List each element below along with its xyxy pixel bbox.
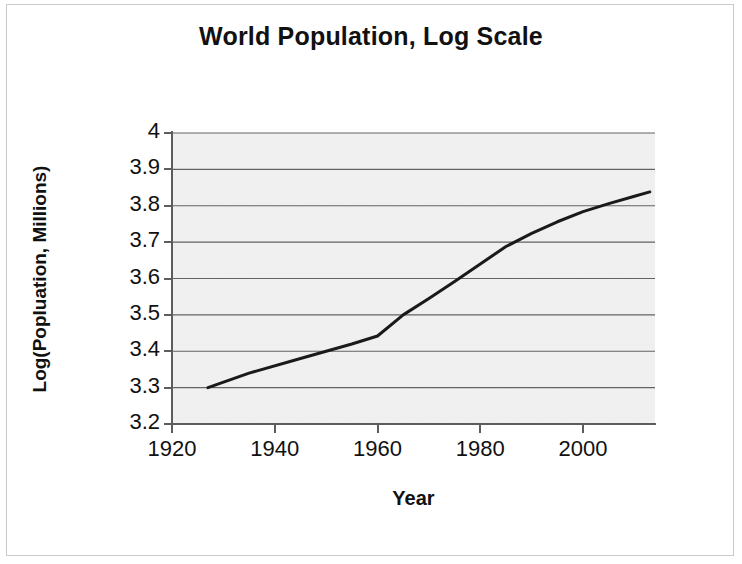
y-tick-label: 3.6 — [100, 264, 160, 290]
x-axis-title: Year — [172, 487, 655, 510]
y-tick-mark — [164, 132, 172, 134]
x-tick-mark — [582, 424, 584, 433]
plot-svg — [172, 133, 655, 424]
y-tick-label: 3.4 — [100, 336, 160, 362]
y-tick-mark — [164, 350, 172, 352]
data-series-group — [208, 192, 650, 388]
y-tick-label: 3.7 — [100, 227, 160, 253]
y-tick-mark — [164, 168, 172, 170]
y-tick-label: 4 — [100, 118, 160, 144]
y-tick-mark — [164, 278, 172, 280]
x-tick-mark — [274, 424, 276, 433]
y-tick-label: 3.2 — [100, 409, 160, 435]
y-tick-labels: 3.23.33.43.53.63.73.83.94 — [98, 0, 160, 564]
x-tick-mark — [479, 424, 481, 433]
x-tick-label: 1960 — [323, 436, 433, 462]
gridlines — [172, 133, 655, 424]
x-tick-label: 1980 — [425, 436, 535, 462]
y-tick-mark — [164, 241, 172, 243]
x-tick-label: 1920 — [117, 436, 227, 462]
plot-area — [172, 133, 655, 424]
y-axis-title: Log(Popluation, Millions) — [29, 129, 51, 429]
y-tick-mark — [164, 205, 172, 207]
x-tick-mark — [171, 424, 173, 433]
y-tick-label: 3.3 — [100, 373, 160, 399]
y-tick-mark — [164, 387, 172, 389]
y-tick-label: 3.8 — [100, 191, 160, 217]
y-tick-label: 3.9 — [100, 154, 160, 180]
x-tick-label: 2000 — [528, 436, 638, 462]
data-line — [208, 192, 650, 388]
y-tick-label: 3.5 — [100, 300, 160, 326]
x-tick-mark — [377, 424, 379, 433]
y-tick-mark — [164, 314, 172, 316]
chart-page: World Population, Log Scale 3.23.33.43.5… — [0, 0, 742, 564]
x-tick-label: 1940 — [220, 436, 330, 462]
